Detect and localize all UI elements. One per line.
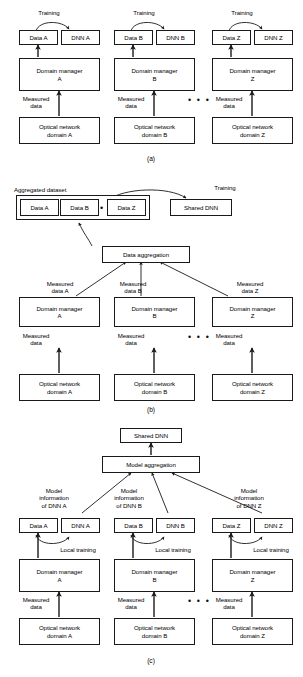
optical-network-box-a-panel-b[interactable]: Optical network domain A [19, 374, 100, 401]
measured-data-z-label-panel-b: Measured data Z [228, 280, 272, 295]
local-training-label-b: Local training [145, 546, 201, 553]
data-box-b-panel-c[interactable]: Data B [114, 518, 153, 533]
panel-label-c: (c) [131, 657, 171, 664]
measured-data-label-b: Measured data [111, 95, 151, 110]
optical-network-box-b-panel-c[interactable]: Optical network domain B [114, 618, 195, 645]
measured-data-label-a: Measured data [16, 95, 56, 110]
panel-a-ellipsis: • • • [188, 96, 210, 105]
training-label-b: Training [124, 9, 164, 16]
optical-network-box-z-panel-c[interactable]: Optical network domain Z [212, 618, 293, 645]
dnn-box-z-panel-c[interactable]: DNN Z [254, 518, 293, 533]
data-box-b[interactable]: Data B [114, 30, 153, 45]
model-info-label-b: Model information of DNN B [105, 487, 153, 509]
panel-label-b: (b) [131, 406, 171, 413]
shared-dnn-box-panel-b[interactable]: Shared DNN [170, 199, 232, 216]
domain-manager-box-a-panel-c[interactable]: Domain manager A [19, 559, 100, 592]
domain-manager-box-a-panel-b[interactable]: Domain manager A [19, 297, 100, 327]
domain-manager-box-b-panel-c[interactable]: Domain manager B [114, 559, 195, 592]
domain-manager-box-b[interactable]: Domain manager B [114, 58, 195, 91]
domain-manager-box-b-panel-b[interactable]: Domain manager B [114, 297, 195, 327]
dnn-box-a[interactable]: DNN A [61, 30, 100, 45]
measured-data-label-z-panel-b: Measured data [209, 332, 249, 347]
model-info-label-a: Model information of DNN A [30, 487, 78, 509]
measured-data-label-z-panel-c: Measured data [209, 596, 249, 611]
data-box-a-panel-c[interactable]: Data A [19, 518, 58, 533]
optical-network-box-z-panel-b[interactable]: Optical network domain Z [212, 374, 293, 401]
training-label-z: Training [222, 9, 262, 16]
local-training-label-z: Local training [243, 546, 299, 553]
dnn-box-z[interactable]: DNN Z [254, 30, 293, 45]
dataset-cell-a[interactable]: Data A [20, 199, 59, 216]
training-label-a: Training [29, 9, 69, 16]
domain-manager-box-a[interactable]: Domain manager A [19, 58, 100, 91]
domain-manager-box-z[interactable]: Domain manager Z [212, 58, 293, 91]
dnn-box-a-panel-c[interactable]: DNN A [61, 518, 100, 533]
measured-data-label-b-panel-b: Measured data [111, 332, 151, 347]
panel-c-ellipsis: • • • [188, 597, 210, 606]
data-box-z-panel-c[interactable]: Data Z [212, 518, 251, 533]
optical-network-box-z[interactable]: Optical network domain Z [212, 117, 293, 144]
domain-manager-box-z-panel-b[interactable]: Domain manager Z [212, 297, 293, 327]
model-info-label-z: Model information of DNN Z [225, 487, 273, 509]
local-training-label-a: Local training [50, 546, 106, 553]
dnn-box-b-panel-c[interactable]: DNN B [156, 518, 195, 533]
measured-data-b-label-panel-b: Measured data B [111, 280, 155, 295]
shared-dnn-box-panel-c[interactable]: Shared DNN [120, 428, 182, 443]
figure-root: Training Training Training Data A DNN A … [0, 0, 303, 677]
measured-data-a-label-panel-b: Measured data A [38, 280, 82, 295]
domain-manager-box-z-panel-c[interactable]: Domain manager Z [212, 559, 293, 592]
measured-data-label-a-panel-b: Measured data [16, 332, 56, 347]
optical-network-box-b[interactable]: Optical network domain B [114, 117, 195, 144]
optical-network-box-b-panel-b[interactable]: Optical network domain B [114, 374, 195, 401]
optical-network-box-a-panel-c[interactable]: Optical network domain A [19, 618, 100, 645]
panel-b-ellipsis: • • • [188, 333, 210, 342]
measured-data-label-a-panel-c: Measured data [16, 596, 56, 611]
data-aggregation-box[interactable]: Data aggregation [102, 246, 190, 263]
measured-data-label-b-panel-c: Measured data [111, 596, 151, 611]
training-label-panel-b: Training [205, 184, 245, 191]
dnn-box-b[interactable]: DNN B [156, 30, 195, 45]
measured-data-label-z: Measured data [209, 95, 249, 110]
data-box-a[interactable]: Data A [19, 30, 58, 45]
dataset-cell-b[interactable]: Data B [60, 199, 99, 216]
data-box-z[interactable]: Data Z [212, 30, 251, 45]
model-aggregation-box[interactable]: Model aggregation [102, 456, 200, 473]
aggregated-dataset-label: Aggregated dataset [14, 186, 84, 193]
dataset-cell-z[interactable]: Data Z [107, 199, 146, 216]
optical-network-box-a[interactable]: Optical network domain A [19, 117, 100, 144]
panel-label-a: (a) [131, 155, 171, 162]
